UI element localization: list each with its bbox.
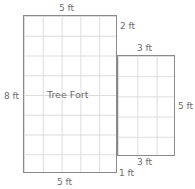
- label-left-height-8ft: 8 ft: [4, 91, 19, 101]
- label-side-top-width-3ft: 3 ft: [137, 43, 152, 53]
- label-top-offset-2ft: 2 ft: [120, 21, 135, 31]
- label-side-height-5ft: 5 ft: [178, 101, 193, 111]
- tree-fort-interior-label: Tree Fort: [47, 89, 88, 100]
- label-bottom-width-5ft: 5 ft: [57, 177, 72, 187]
- side-rectangle-grid: [117, 55, 175, 156]
- label-side-bottom-width-3ft: 3 ft: [137, 157, 152, 167]
- label-bottom-offset-1ft: 1 ft: [119, 168, 134, 178]
- tree-fort-floor-plan-figure: 5 ft 2 ft 3 ft 8 ft Tree Fort 5 ft 3 ft …: [0, 0, 195, 189]
- label-top-width-5ft: 5 ft: [59, 3, 74, 13]
